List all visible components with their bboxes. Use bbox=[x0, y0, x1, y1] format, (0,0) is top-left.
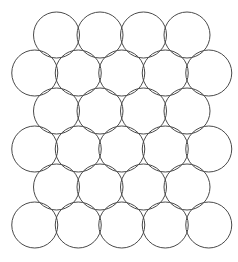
packing-circle bbox=[12, 202, 58, 248]
packing-circle bbox=[99, 202, 145, 248]
packing-circle bbox=[55, 202, 101, 248]
circle-packing-canvas bbox=[0, 0, 238, 262]
circles-group bbox=[12, 12, 232, 248]
packing-circle bbox=[186, 202, 232, 248]
packing-circle bbox=[142, 202, 188, 248]
circle-packing-figure bbox=[0, 0, 238, 262]
